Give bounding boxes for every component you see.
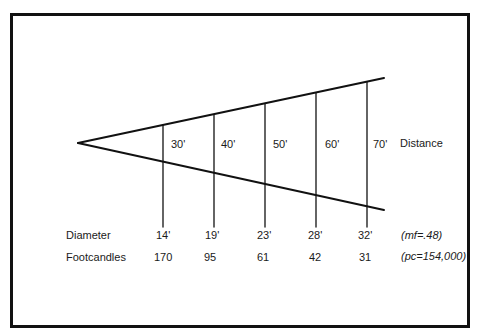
footcandles-value: 31 bbox=[359, 251, 371, 263]
diameter-value: 14' bbox=[156, 229, 170, 241]
footcandles-row-label: Footcandles bbox=[66, 251, 126, 263]
diameter-value: 19' bbox=[205, 229, 219, 241]
distance-value: 70' bbox=[373, 138, 387, 150]
footcandles-value: 95 bbox=[204, 251, 216, 263]
footcandles-value: 42 bbox=[309, 251, 321, 263]
distance-value: 60' bbox=[325, 138, 339, 150]
beam-upper-edge bbox=[78, 78, 384, 143]
diameter-value: 32' bbox=[358, 229, 372, 241]
footcandles-value: 61 bbox=[257, 251, 269, 263]
distance-row-label: Distance bbox=[400, 137, 443, 149]
distance-value: 50' bbox=[273, 138, 287, 150]
footcandles-value: 170 bbox=[154, 251, 172, 263]
beam-lower-edge bbox=[78, 143, 384, 210]
mf-note: (mf=.48) bbox=[401, 229, 442, 241]
diameter-value: 28' bbox=[308, 229, 322, 241]
pc-note: (pc=154,000) bbox=[401, 250, 466, 262]
diameter-row-label: Diameter bbox=[66, 229, 111, 241]
distance-value: 40' bbox=[221, 138, 235, 150]
diameter-value: 23' bbox=[257, 229, 271, 241]
distance-value: 30' bbox=[171, 138, 185, 150]
